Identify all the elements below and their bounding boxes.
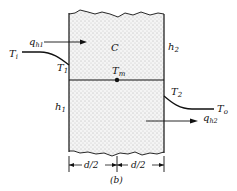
label-d-half-left: d/2 xyxy=(84,160,99,170)
label-qh1: qh1 xyxy=(29,36,44,49)
dim-arrowhead xyxy=(159,163,164,167)
label-to: To xyxy=(217,103,228,116)
to-temperature-curve xyxy=(164,96,214,109)
label-d-half-right: d/2 xyxy=(131,160,146,170)
qh2-arrowhead xyxy=(190,119,198,124)
label-t1: T1 xyxy=(57,62,68,75)
label-c: C xyxy=(111,42,119,53)
label-h1: h1 xyxy=(55,101,66,114)
label-ti: Ti xyxy=(9,48,18,61)
dim-arrowhead xyxy=(69,163,74,167)
wall-heat-transfer-diagram: Ti qh1 C h2 T1 Tm T2 h1 To qh2 d/2 d/2 (… xyxy=(0,0,237,191)
wall-body xyxy=(69,10,164,156)
label-t2: T2 xyxy=(171,86,183,99)
dim-arrowhead xyxy=(117,163,122,167)
label-qh2: qh2 xyxy=(203,112,218,125)
label-h2: h2 xyxy=(168,41,179,54)
figure-caption: (b) xyxy=(110,175,123,185)
dim-arrowhead xyxy=(112,163,117,167)
tm-point xyxy=(115,78,119,82)
